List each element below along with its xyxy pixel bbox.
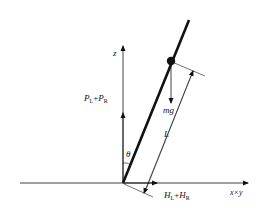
gravity-label: mg xyxy=(163,105,174,115)
horizontal-axis-label: x×y xyxy=(229,188,243,197)
theta-label: θ xyxy=(126,149,131,159)
dimension-ext-bottom xyxy=(124,184,153,197)
dimension-ext-top xyxy=(172,62,205,76)
vertical-force-label: PL+PR xyxy=(83,93,108,104)
z-axis-label: z xyxy=(112,48,117,58)
length-label: L xyxy=(163,129,169,139)
pendulum-diagram: z PL+PR θ mg L HL+HR x×y xyxy=(0,0,267,214)
pendulum-rod xyxy=(123,20,189,183)
horizontal-force-label: HL+HR xyxy=(163,190,190,201)
